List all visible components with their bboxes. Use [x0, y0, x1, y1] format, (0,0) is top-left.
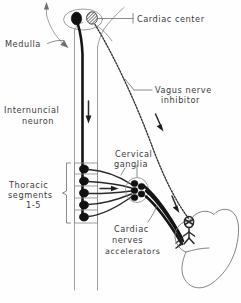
inhibitor-nucleus [71, 12, 81, 25]
label-cardiac-center: Cardiac center [137, 14, 205, 24]
diagram-root: Cardiac center Medulla Vagus nerve inhib… [0, 0, 241, 303]
cardiac-center-label: Cardiac center [137, 14, 205, 24]
internuncial-label-line1: Internuncial [4, 105, 59, 115]
cardiac-nerves-label-line1: Cardiac [114, 224, 149, 234]
internuncial-label-line2: neuron [22, 116, 54, 126]
vagus-nerve-label-line1: Vagus nerve [155, 85, 212, 95]
ganglion-cell-5 [138, 191, 145, 197]
medulla-label: Medulla [5, 39, 41, 49]
ganglion-cell-1 [131, 180, 138, 186]
cardiac-nerves-label-line3: accelerators [105, 247, 160, 256]
thoracic-label-line1: Thoracic [8, 180, 48, 190]
thoracic-label-line3: 1-5 [26, 200, 41, 210]
vagus-nerve-label-line2: inhibitor [161, 95, 200, 105]
cervical-ganglia-label-line2: ganglia [114, 159, 148, 169]
ganglion-cell-2 [131, 187, 138, 193]
label-cervical-ganglia: Cervical ganglia [114, 149, 152, 169]
cardiac-nerves-label-line2: nerves [112, 235, 143, 245]
accelerator-nucleus [87, 12, 98, 24]
label-medulla: Medulla [5, 39, 41, 49]
thoracic-label-line2: segments [8, 190, 53, 200]
ganglion-cell-3 [131, 194, 138, 200]
cervical-ganglia-label-line1: Cervical [115, 149, 152, 159]
cardiac-innervation-figure: Cardiac center Medulla Vagus nerve inhib… [0, 0, 241, 303]
